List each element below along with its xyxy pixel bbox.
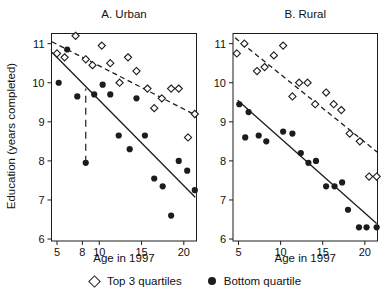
- diamond-marker: [296, 79, 303, 86]
- diamond-marker: [133, 67, 140, 74]
- diamond-marker: [89, 62, 96, 69]
- dot-marker: [142, 132, 148, 138]
- dot-marker: [83, 160, 89, 166]
- diamond-marker: [330, 101, 337, 108]
- diamond-marker: [124, 54, 131, 61]
- dot-marker: [345, 207, 351, 213]
- dot-marker: [160, 183, 166, 189]
- diamond-marker: [280, 42, 287, 49]
- dot-marker: [127, 146, 133, 152]
- legend-item-top-quartiles: Top 3 quartiles: [90, 275, 182, 287]
- dot-marker: [168, 212, 174, 218]
- dot-marker: [151, 175, 157, 181]
- legend-item-bottom-quartile: Bottom quartile: [208, 275, 301, 287]
- panel-a-x-axis-title: Age in 1997: [52, 252, 197, 264]
- dot-marker: [56, 80, 62, 86]
- panel-frame: [52, 34, 197, 242]
- diamond-marker: [365, 173, 372, 180]
- dot-marker: [236, 101, 242, 107]
- y-tick-label: 7: [220, 194, 226, 206]
- dot-marker: [280, 128, 286, 134]
- dot-marker: [298, 150, 304, 156]
- diamond-marker: [184, 134, 191, 141]
- dot-marker: [263, 138, 269, 144]
- solid-fit-line: [52, 52, 195, 197]
- dot-marker: [331, 183, 337, 189]
- diamond-marker: [346, 130, 353, 137]
- y-tick-label: 7: [38, 194, 44, 206]
- diamond-marker: [98, 42, 105, 49]
- panel-b-x-axis-title: Age in 1997: [233, 252, 378, 264]
- dot-marker: [305, 160, 311, 166]
- figure: 6789101158101520678910115101520 Educatio…: [0, 0, 391, 300]
- dot-marker: [91, 91, 97, 97]
- diamond-marker: [191, 110, 198, 117]
- diamond-marker: [356, 138, 363, 145]
- dot-marker: [64, 46, 70, 52]
- dot-marker: [176, 158, 182, 164]
- y-tick-label: 6: [38, 233, 44, 245]
- y-tick-label: 9: [220, 116, 226, 128]
- dashed-fit-line: [52, 42, 197, 116]
- diamond-marker: [338, 106, 345, 113]
- dot-marker: [100, 82, 106, 88]
- dot-marker: [107, 91, 113, 97]
- dot-marker: [133, 95, 139, 101]
- dot-marker: [323, 183, 329, 189]
- dot-marker: [192, 187, 198, 193]
- dot-marker: [363, 224, 369, 230]
- y-tick-label: 9: [38, 116, 44, 128]
- dot-marker: [242, 134, 248, 140]
- diamond-marker: [53, 50, 60, 57]
- legend-label-bottom-quartile: Bottom quartile: [224, 275, 301, 287]
- dot-marker: [289, 130, 295, 136]
- y-tick-label: 10: [32, 77, 44, 89]
- diamond-marker: [261, 64, 268, 71]
- y-axis-title: Education (years completed): [5, 63, 17, 209]
- panel-a-title: A. Urban: [52, 8, 197, 20]
- diamond-marker: [116, 79, 123, 86]
- diamond-marker: [304, 79, 311, 86]
- diamond-marker: [168, 85, 175, 92]
- diamond-marker: [233, 50, 240, 57]
- y-tick-label: 8: [38, 155, 44, 167]
- diamond-marker: [82, 56, 89, 63]
- diamond-marker: [289, 93, 296, 100]
- diamond-marker: [270, 52, 277, 59]
- diamond-marker: [241, 40, 248, 47]
- diamond-marker: [373, 173, 380, 180]
- dot-marker: [74, 93, 80, 99]
- diamond-marker: [61, 54, 68, 61]
- diamond-marker: [151, 105, 158, 112]
- y-tick-label: 11: [33, 38, 44, 50]
- diamond-marker: [312, 101, 319, 108]
- dot-marker: [313, 158, 319, 164]
- y-tick-label: 8: [220, 155, 226, 167]
- legend-label-top-quartiles: Top 3 quartiles: [107, 275, 182, 287]
- panel-b-title: B. Rural: [233, 8, 378, 20]
- y-tick-label: 6: [220, 233, 226, 245]
- dot-marker: [356, 224, 362, 230]
- dot-marker: [245, 109, 251, 115]
- dot-marker: [116, 132, 122, 138]
- diamond-marker: [253, 67, 260, 74]
- y-tick-label: 11: [215, 38, 226, 50]
- diamond-marker: [323, 89, 330, 96]
- dot-marker: [374, 224, 380, 230]
- dot-marker: [256, 132, 262, 138]
- legend: Top 3 quartiles Bottom quartile: [0, 275, 391, 287]
- filled-circle-icon: [208, 277, 216, 285]
- panel-frame: [233, 34, 378, 242]
- y-tick-label: 10: [214, 77, 226, 89]
- diamond-marker: [144, 85, 151, 92]
- diamond-marker: [175, 85, 182, 92]
- dot-marker: [184, 168, 190, 174]
- diamond-marker: [107, 60, 114, 67]
- dot-marker: [339, 179, 345, 185]
- open-diamond-icon: [88, 275, 101, 288]
